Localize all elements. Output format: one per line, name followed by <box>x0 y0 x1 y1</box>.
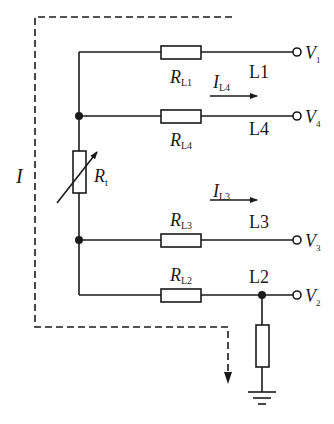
current-loop-arrow-icon <box>224 372 232 384</box>
terminal-v3-icon <box>293 236 301 244</box>
current-label-il4: IL4 <box>212 72 230 93</box>
terminal-label-v3: V3 <box>305 231 321 253</box>
rl4-label: RL4 <box>169 130 192 151</box>
branch-l1 <box>79 46 301 59</box>
rl3-label: RL3 <box>169 210 192 231</box>
branch-l3 <box>79 234 301 247</box>
circuit-diagram: I Rt RL1 L1 V1 IL4 RL4 L4 V4 IL3 <box>0 0 334 424</box>
terminal-v4-icon <box>293 112 301 120</box>
terminal-label-v4: V4 <box>305 107 321 129</box>
terminal-v2-icon <box>293 291 301 299</box>
current-loop-label: I <box>15 165 24 187</box>
ground-icon <box>248 392 276 404</box>
branch-l2 <box>79 289 301 392</box>
variable-resistor-rt <box>57 151 97 203</box>
line-label-l3: L3 <box>249 212 269 232</box>
terminal-v1-icon <box>293 48 301 56</box>
rl2-label: RL2 <box>169 265 192 286</box>
load-resistor <box>256 325 269 367</box>
terminal-label-v2: V2 <box>305 286 321 308</box>
rl1-label: RL1 <box>169 67 192 88</box>
line-label-l1: L1 <box>249 62 269 82</box>
junction-dot-l2 <box>258 291 266 299</box>
junction-dot-l3 <box>75 236 83 244</box>
line-label-l2: L2 <box>249 267 269 287</box>
terminal-label-v1: V1 <box>305 43 321 65</box>
junction-dot-l4 <box>75 112 83 120</box>
line-label-l4: L4 <box>249 119 269 139</box>
rt-label: Rt <box>93 166 108 188</box>
current-label-il3: IL3 <box>212 181 230 202</box>
